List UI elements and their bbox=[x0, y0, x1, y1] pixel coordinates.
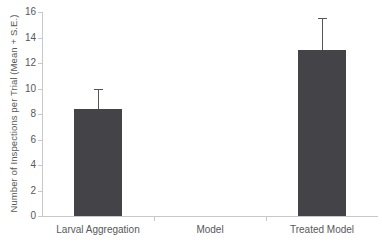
x-tick-label: Model bbox=[196, 224, 223, 235]
bar bbox=[298, 50, 346, 216]
x-tick-mark bbox=[266, 216, 267, 221]
error-bar-stem bbox=[322, 18, 323, 50]
y-tick-label: 16 bbox=[2, 7, 36, 17]
y-tick-label: 6 bbox=[2, 135, 36, 145]
error-bar-stem bbox=[98, 89, 99, 109]
y-tick-mark bbox=[38, 114, 43, 115]
y-tick-label: 8 bbox=[2, 109, 36, 119]
y-tick-label: 10 bbox=[2, 84, 36, 94]
y-tick-mark bbox=[38, 63, 43, 64]
x-tick-label: Treated Model bbox=[290, 224, 354, 235]
x-tick-label: Larval Aggregation bbox=[56, 224, 139, 235]
y-tick-mark bbox=[38, 191, 43, 192]
x-tick-mark bbox=[154, 216, 155, 221]
y-tick-label: 0 bbox=[2, 211, 36, 221]
y-tick-mark bbox=[38, 38, 43, 39]
y-tick-mark bbox=[38, 165, 43, 166]
y-tick-label: 4 bbox=[2, 160, 36, 170]
y-tick-mark bbox=[38, 12, 43, 13]
bar-chart: Number of Inspections per Trial (Mean + … bbox=[0, 0, 382, 248]
y-tick-label: 14 bbox=[2, 33, 36, 43]
error-bar-cap bbox=[318, 18, 327, 19]
y-tick-label: 12 bbox=[2, 58, 36, 68]
x-axis-line bbox=[42, 216, 378, 217]
y-tick-mark bbox=[38, 89, 43, 90]
y-tick-mark bbox=[38, 216, 43, 217]
error-bar-cap bbox=[94, 89, 103, 90]
bar bbox=[74, 109, 122, 216]
y-tick-mark bbox=[38, 140, 43, 141]
y-tick-label: 2 bbox=[2, 186, 36, 196]
